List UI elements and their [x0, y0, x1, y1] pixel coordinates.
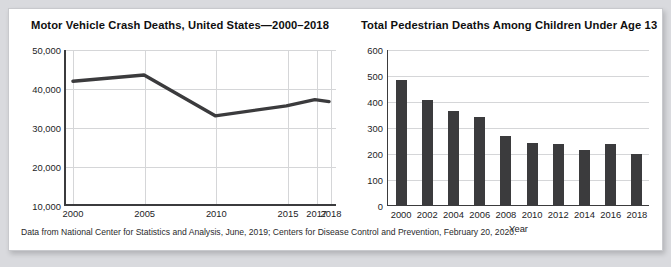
- x-axis-tick-label: 2016: [600, 209, 621, 220]
- x-axis-tick-label: 2008: [495, 209, 516, 220]
- x-axis-tick-label: 2018: [321, 208, 342, 219]
- y-axis-tick-label: 400: [367, 97, 383, 108]
- line-chart-series: [66, 50, 336, 204]
- x-axis-tick-label: 2018: [626, 209, 647, 220]
- y-axis-tick-label: 100: [367, 175, 383, 186]
- figure-caption: Data from National Center for Statistics…: [21, 227, 650, 238]
- bar: [553, 144, 564, 205]
- bar: [396, 80, 407, 205]
- x-axis-tick-label: 2015: [278, 208, 299, 219]
- y-axis-tick-label: 10,000: [32, 201, 61, 212]
- bar-chart-plot-area: 0100200300400500600 20002002200420062008…: [387, 50, 649, 206]
- x-axis-tick-label: 2000: [391, 209, 412, 220]
- x-axis-tick-label: 2006: [469, 209, 490, 220]
- bar: [422, 100, 433, 205]
- y-axis-tick-label: 600: [367, 45, 383, 56]
- gridline: [388, 50, 649, 51]
- bar: [474, 117, 485, 205]
- line-chart-title: Motor Vehicle Crash Deaths, United State…: [31, 19, 329, 31]
- line-chart-plot-area: 10,00020,00030,00040,00050,000 200020052…: [64, 50, 336, 206]
- x-axis-tick-label: 2010: [206, 208, 227, 219]
- x-axis-tick-label: 2004: [443, 209, 464, 220]
- bar: [579, 150, 590, 205]
- x-axis-tick-label: 2005: [134, 208, 155, 219]
- y-axis-tick-label: 0: [378, 201, 383, 212]
- y-axis-tick-label: 20,000: [32, 162, 61, 173]
- bar: [631, 154, 642, 205]
- x-axis-tick-label: 2002: [417, 209, 438, 220]
- y-axis-tick-label: 200: [367, 149, 383, 160]
- y-axis-tick-label: 50,000: [32, 45, 61, 56]
- x-axis-tick-label: 2000: [63, 208, 84, 219]
- x-axis-tick-label: 2010: [522, 209, 543, 220]
- charts-container: Motor Vehicle Crash Deaths, United State…: [9, 9, 662, 214]
- gridline: [388, 76, 649, 77]
- bar-chart-panel: Total Pedestrian Deaths Among Children U…: [349, 9, 662, 214]
- bar: [605, 144, 616, 205]
- figure-card: Motor Vehicle Crash Deaths, United State…: [8, 8, 663, 251]
- x-axis-tick-label: 2014: [574, 209, 595, 220]
- x-axis-tick-label: 2012: [548, 209, 569, 220]
- bar: [527, 143, 538, 205]
- y-axis-tick-label: 40,000: [32, 84, 61, 95]
- line-chart-panel: Motor Vehicle Crash Deaths, United State…: [17, 9, 347, 214]
- y-axis-tick-label: 500: [367, 71, 383, 82]
- bar: [448, 111, 459, 205]
- y-axis-tick-label: 30,000: [32, 123, 61, 134]
- bar: [500, 136, 511, 205]
- y-axis-tick-label: 300: [367, 123, 383, 134]
- bar-chart-title: Total Pedestrian Deaths Among Children U…: [361, 19, 657, 31]
